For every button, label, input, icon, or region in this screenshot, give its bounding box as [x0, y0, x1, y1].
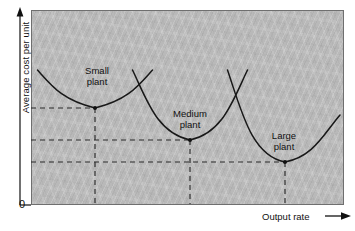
curve-label-small-plant: Small plant	[75, 66, 119, 87]
curve-label-large-plant-line2: plant	[262, 142, 306, 153]
curve-label-medium-plant: Medium plant	[163, 109, 217, 130]
curve-label-large-plant-line1: Large	[262, 131, 306, 142]
y-axis-label: Average cost per unit	[20, 0, 31, 138]
marker-small-plant-minimum	[93, 106, 97, 110]
x-axis-label: Output rate	[262, 211, 310, 222]
figure-container: Average cost per unit 0 Output rate Smal…	[0, 0, 355, 231]
marker-large-plant-minimum	[283, 160, 287, 164]
curve-label-large-plant: Large plant	[262, 131, 306, 152]
curve-label-small-plant-line2: plant	[75, 77, 119, 88]
curve-label-medium-plant-line1: Medium	[163, 109, 217, 120]
x-axis-arrow-icon	[341, 212, 351, 219]
marker-medium-plant-minimum	[188, 138, 192, 142]
origin-label: 0	[19, 198, 25, 210]
guide-lines-group	[31, 108, 285, 204]
curve-label-small-plant-line1: Small	[75, 66, 119, 77]
curve-label-medium-plant-line2: plant	[163, 120, 217, 131]
